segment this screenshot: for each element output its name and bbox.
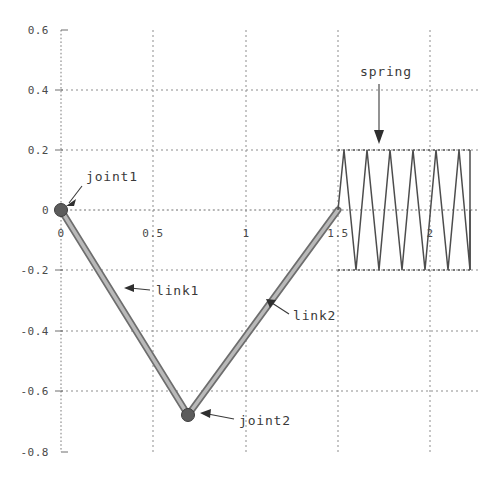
y-tick-label: -0.4: [21, 325, 50, 338]
x-tick-label: 1: [242, 227, 249, 240]
spring-zigzag: [338, 150, 470, 270]
joint2-label: joint2: [239, 413, 291, 428]
y-tick-labels: 0.6 0.4 0.2 0 -0.2 -0.4 -0.6 -0.8: [21, 24, 50, 459]
horizontal-gridlines: [61, 90, 478, 391]
link1-label: link1: [156, 283, 199, 298]
figure-canvas: 0.6 0.4 0.2 0 -0.2 -0.4 -0.6 -0.8 0 0.5 …: [0, 0, 496, 486]
x-tick-label: 1.5: [327, 227, 348, 240]
x-tick-label: 0.5: [142, 227, 163, 240]
spring-arrow-icon: [374, 130, 384, 144]
joint2-marker: [182, 409, 195, 422]
annotation-joint2: joint2: [200, 409, 291, 428]
y-tick-label: 0: [42, 204, 49, 217]
y-tick-label: 0.4: [28, 84, 49, 97]
y-tick-label: -0.8: [21, 446, 50, 459]
annotation-link2: link2: [266, 299, 336, 323]
x-tick-labels: 0 0.5 1 1.5 2: [57, 227, 433, 240]
linkage-plot: 0.6 0.4 0.2 0 -0.2 -0.4 -0.6 -0.8 0 0.5 …: [0, 0, 496, 486]
joint2-arrow-icon: [200, 409, 211, 418]
y-tick-label: 0.6: [28, 24, 49, 37]
joint1-marker: [55, 204, 68, 217]
link2-label: link2: [293, 308, 336, 323]
spring-label: spring: [360, 64, 412, 79]
joint2-leader-line: [208, 414, 234, 419]
x-tick-label: 0: [57, 227, 64, 240]
annotation-joint1: joint1: [66, 169, 138, 206]
joint1-label: joint1: [86, 169, 138, 184]
spring-element: [338, 150, 470, 270]
y-tick-label: -0.6: [21, 385, 50, 398]
y-tick-label: -0.2: [21, 264, 50, 277]
link1-arrow-icon: [124, 284, 134, 292]
link2-leader-line: [272, 303, 289, 314]
vertical-gridlines: [61, 30, 430, 452]
annotation-link1: link1: [124, 283, 199, 298]
y-tick-label: 0.2: [28, 144, 49, 157]
annotation-spring: spring: [360, 64, 412, 144]
